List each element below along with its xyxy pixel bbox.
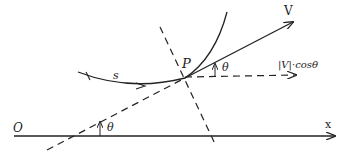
x-axis-label: x <box>325 119 331 130</box>
diagram-svg <box>0 0 346 155</box>
tangent-line <box>47 78 185 150</box>
projection-label: |V|·cosθ <box>278 60 318 70</box>
trajectory-curve <box>78 12 227 84</box>
velocity-label: V <box>284 5 293 17</box>
point-label: P <box>182 57 191 70</box>
projection-line <box>185 75 296 77</box>
diagram-canvas: O x V P s θ θ |V|·cosθ <box>0 0 346 155</box>
angle-axis-label: θ <box>107 122 114 133</box>
velocity-vector <box>185 22 293 78</box>
arc-length-label: s <box>113 70 119 81</box>
origin-label: O <box>13 122 23 134</box>
angle-p-label: θ <box>222 62 229 73</box>
